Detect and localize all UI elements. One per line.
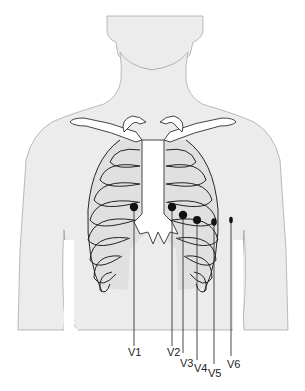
label-v2: V2 xyxy=(167,346,180,358)
label-v1: V1 xyxy=(128,346,141,358)
label-v4: V4 xyxy=(194,362,207,374)
electrode-v2 xyxy=(168,203,176,211)
electrode-v6 xyxy=(229,217,233,223)
left-arm-gap xyxy=(233,240,243,332)
label-v5: V5 xyxy=(208,367,221,379)
label-v6: V6 xyxy=(227,358,240,370)
label-v3: V3 xyxy=(180,357,193,369)
electrode-v1 xyxy=(130,203,138,211)
right-arm-gap xyxy=(64,240,74,332)
electrode-v5 xyxy=(211,218,217,226)
ecg-lead-diagram: V1 V2 V3 V4 V5 V6 xyxy=(0,0,305,391)
electrode-v4 xyxy=(193,216,201,224)
electrode-v3 xyxy=(179,211,187,219)
